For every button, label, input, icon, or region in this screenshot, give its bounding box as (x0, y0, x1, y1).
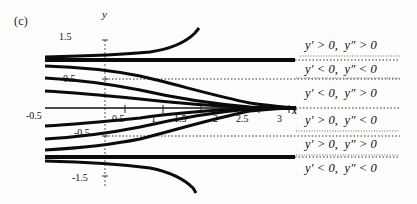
region-label-6: y′ < 0, y″ < 0 (305, 161, 377, 176)
region-6-prime: y′ < 0, (305, 161, 338, 175)
region-2-prime: y′ < 0, (305, 62, 338, 76)
region-1-dprime: y″ > 0 (345, 38, 377, 52)
region-1-prime: y′ > 0, (305, 38, 338, 52)
region-label-3: y′ < 0, y″ > 0 (305, 86, 377, 101)
curve-above-eq-blowup (45, 28, 199, 57)
region-label-4: y′ > 0, y″ < 0 (305, 113, 377, 128)
region-6-dprime: y″ < 0 (345, 161, 377, 175)
region-2-dprime: y″ < 0 (345, 62, 377, 76)
region-5-dprime: y″ > 0 (345, 137, 377, 151)
region-4-dprime: y″ < 0 (345, 113, 377, 127)
region-label-5: y′ > 0, y″ > 0 (305, 137, 377, 152)
region-3-dprime: y″ > 0 (345, 86, 377, 100)
region-label-2: y′ < 0, y″ < 0 (305, 62, 377, 77)
figure-panel-c: (c) y x 1.5 0.5 -0.5 -1.5 -0.5 0.5 1 1.5… (0, 0, 417, 204)
curve-below-eq-blowdown (45, 161, 196, 193)
region-5-prime: y′ > 0, (305, 137, 338, 151)
region-3-prime: y′ < 0, (305, 86, 338, 100)
region-4-prime: y′ > 0, (305, 113, 338, 127)
region-label-1: y′ > 0, y″ > 0 (305, 38, 377, 53)
